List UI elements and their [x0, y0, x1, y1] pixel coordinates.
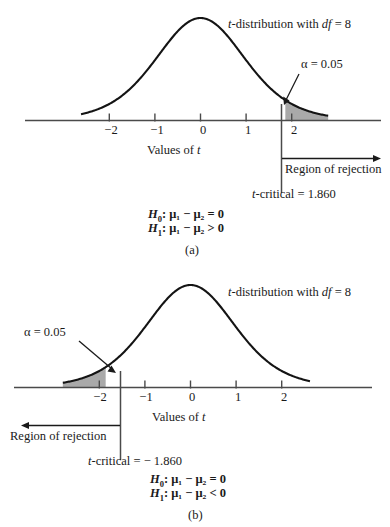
x-tick-label-a-2: 0 — [192, 124, 214, 137]
chart-title-b-main: -distribution with — [231, 285, 321, 299]
t-distribution-curve-a — [81, 18, 328, 116]
panel-tag-b: (b) — [188, 509, 203, 522]
alt-hypothesis-b-name: H — [150, 486, 160, 500]
chart-title-a-main: -distribution with — [231, 17, 321, 31]
chart-title-b-eq: = 8 — [332, 285, 352, 299]
alpha-label-a: α = 0.05 — [301, 58, 343, 71]
null-hypothesis-b-name: H — [150, 472, 160, 486]
alt-hypothesis-b: H1: μ₁ − μ₂ < 0 — [150, 487, 226, 502]
x-tick-label-b-0: −2 — [89, 391, 111, 404]
t-critical-label-a: t-critical = 1.860 — [252, 188, 336, 201]
region-of-rejection-label-b: Region of rejection — [10, 430, 107, 443]
x-tick-label-a-3: 1 — [237, 124, 259, 137]
chart-title-a-eq: = 8 — [332, 17, 352, 31]
x-axis-title-a-text: Values of — [147, 143, 197, 157]
chart-title-a: t-distribution with df = 8 — [228, 18, 351, 31]
chart-title-a-df: df — [322, 17, 332, 31]
t-critical-b-rest: -critical = − 1.860 — [91, 454, 181, 468]
panel-tag-a: (a) — [185, 244, 199, 257]
region-arrow-head-b — [21, 422, 29, 429]
x-tick-label-a-4: 2 — [283, 124, 305, 137]
x-tick-label-b-3: 1 — [227, 391, 249, 404]
x-axis-title-b-text: Values of — [152, 410, 202, 424]
alpha-leader-line-b — [79, 341, 112, 369]
chart-title-b: t-distribution with df = 8 — [228, 286, 351, 299]
null-hypothesis-a-name: H — [148, 207, 158, 221]
alpha-label-b: α = 0.05 — [24, 326, 66, 339]
null-hypothesis-a-statement: : μ₁ − μ₂ = 0 — [162, 207, 224, 221]
x-tick-label-a-0: −2 — [100, 124, 122, 137]
panel-b: t-distribution with df = 8 −2 −1 0 1 2 V… — [0, 264, 390, 527]
x-tick-label-b-4: 2 — [273, 391, 295, 404]
alt-hypothesis-a: H1: μ₁ − μ₂ > 0 — [148, 222, 224, 237]
region-arrow-head-a — [373, 155, 381, 162]
page-edge-mark — [1, 503, 4, 515]
alpha-leader-line-a — [286, 74, 299, 100]
t-critical-label-b: t-critical = − 1.860 — [88, 455, 182, 468]
alt-hypothesis-a-statement: : μ₁ − μ₂ > 0 — [162, 221, 224, 235]
t-critical-a-rest: -critical = 1.860 — [255, 187, 335, 201]
x-axis-title-a: Values of t — [147, 144, 200, 157]
t-distribution-curve-b — [63, 285, 310, 383]
alt-hypothesis-b-statement: : μ₁ − μ₂ < 0 — [164, 486, 226, 500]
x-tick-label-b-2: 0 — [181, 391, 203, 404]
chart-title-b-df: df — [322, 285, 332, 299]
region-of-rejection-label-a: Region of rejection — [285, 163, 382, 176]
x-axis-title-b: Values of t — [152, 411, 205, 424]
x-tick-label-a-1: −1 — [146, 124, 168, 137]
alt-hypothesis-a-name: H — [148, 221, 158, 235]
panel-a: t-distribution with df = 8 −2 −1 0 1 2 V… — [0, 0, 390, 264]
null-hypothesis-b-statement: : μ₁ − μ₂ = 0 — [164, 472, 226, 486]
x-axis-title-a-var: t — [197, 143, 200, 157]
x-tick-label-b-1: −1 — [135, 391, 157, 404]
x-axis-title-b-var: t — [202, 410, 205, 424]
